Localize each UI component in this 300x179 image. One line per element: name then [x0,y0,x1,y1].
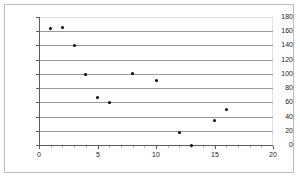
y-tick-mark [36,45,39,46]
x-tick-mark [39,146,40,149]
gridline [39,131,273,132]
y-tick-label: 60 [267,98,293,105]
x-tick-mark-minor [51,146,52,148]
y-tick-mark [36,17,39,18]
chart-frame: 020406080100120140160180 05101520 [4,4,294,173]
x-tick-label: 20 [261,151,285,159]
x-tick-mark-minor [226,146,227,148]
x-tick-label: 0 [27,151,51,159]
x-tick-mark [273,146,274,149]
data-point [96,96,99,99]
x-tick-label: 5 [86,151,110,159]
y-tick-label: 120 [267,56,293,63]
data-point [155,79,158,82]
x-tick-mark-minor [168,146,169,148]
x-tick-mark-minor [238,146,239,148]
y-tick-mark [36,131,39,132]
gridline [39,17,273,18]
x-tick-mark [215,146,216,149]
y-tick-mark [36,102,39,103]
data-point [225,108,228,111]
x-tick-mark-minor [250,146,251,148]
data-point [108,101,111,104]
y-tick-label: 0 [267,141,293,148]
x-tick-mark-minor [261,146,262,148]
y-tick-mark [36,117,39,118]
gridline [39,88,273,89]
x-tick-mark-minor [121,146,122,148]
x-tick-mark-minor [133,146,134,148]
y-tick-mark [36,74,39,75]
data-point [190,144,193,147]
x-tick-mark-minor [203,146,204,148]
x-tick-mark-minor [144,146,145,148]
x-tick-mark [98,146,99,149]
y-tick-label: 80 [267,84,293,91]
y-tick-mark [36,31,39,32]
x-tick-mark [156,146,157,149]
x-tick-mark-minor [62,146,63,148]
gridline [39,60,273,61]
gridline [39,31,273,32]
y-tick-label: 40 [267,113,293,120]
y-tick-mark [36,60,39,61]
x-tick-mark-minor [74,146,75,148]
x-tick-mark-minor [109,146,110,148]
x-tick-mark-minor [179,146,180,148]
y-tick-label: 180 [267,13,293,20]
y-tick-label: 160 [267,27,293,34]
y-tick-mark [36,88,39,89]
y-axis-line [39,17,40,146]
x-tick-label: 10 [144,151,168,159]
x-tick-mark-minor [86,146,87,148]
gridline [39,117,273,118]
data-point [178,131,181,134]
x-tick-label: 15 [203,151,227,159]
scatter-plot: 020406080100120140160180 05101520 [5,5,293,172]
data-point [73,44,76,47]
data-point [213,119,216,122]
y-tick-label: 140 [267,41,293,48]
y-tick-label: 20 [267,127,293,134]
y-tick-label: 100 [267,70,293,77]
gridline [39,74,273,75]
gridline [39,102,273,103]
